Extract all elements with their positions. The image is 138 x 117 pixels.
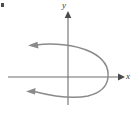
y-axis-arrowhead-icon: [65, 11, 72, 18]
y-axis: [65, 11, 72, 105]
x-axis-label: x: [126, 72, 130, 81]
y-axis-label: y: [62, 1, 66, 10]
curve-upper-arrowhead-icon: [28, 42, 39, 49]
parabola-curve: [26, 42, 108, 98]
graph-canvas: [0, 0, 138, 117]
parabola-path: [34, 44, 108, 97]
curve-lower-arrowhead-icon: [26, 88, 36, 95]
math-figure-parabola: y x: [0, 0, 138, 117]
x-axis-arrowhead-icon: [118, 74, 125, 81]
